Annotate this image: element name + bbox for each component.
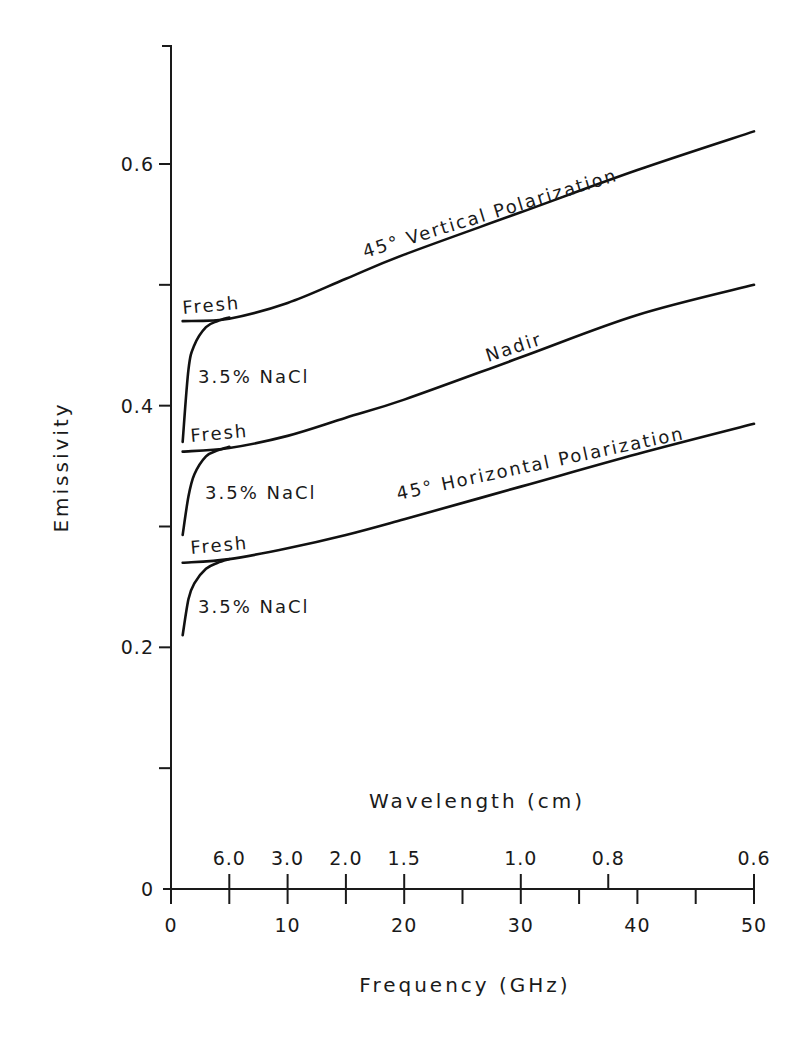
vertical-pol-label: 45° Vertical Polarization (360, 164, 620, 262)
x-tick-label: 0 (164, 914, 177, 936)
wavelength-tick-label: 1.0 (504, 847, 537, 869)
labels: Emissivity Frequency (GHz) Wavelength (c… (49, 164, 686, 997)
wavelength-tick-label: 0.6 (737, 847, 770, 869)
wavelength-tick-label: 0.8 (592, 847, 625, 869)
x-tick-label: 20 (391, 914, 417, 936)
nadir-nacl-label: 3.5% NaCl (205, 482, 317, 503)
horizontal-nacl-label: 3.5% NaCl (198, 596, 310, 617)
horizontal-pol-label: 45° Horizontal Polarization (394, 422, 686, 504)
y-axis-title: Emissivity (49, 401, 73, 532)
vertical-fresh-label: Fresh (182, 292, 242, 318)
y-tick-label: 0.4 (121, 395, 154, 417)
x-tick-label: 10 (275, 914, 301, 936)
y-axis-line (162, 46, 171, 901)
wavelength-tick-label: 6.0 (213, 847, 246, 869)
horizontal-fresh-label: Fresh (190, 532, 250, 558)
vertical-nacl-label: 3.5% NaCl (198, 366, 310, 387)
wavelength-tick-label: 1.5 (388, 847, 421, 869)
x-tick-label: 50 (741, 914, 767, 936)
emissivity-chart: 00.20.40.6010203040506.03.02.01.51.00.80… (0, 0, 812, 1045)
wavelength-axis-title: Wavelength (cm) (369, 789, 585, 813)
y-tick-label: 0.2 (121, 636, 154, 658)
x-tick-label: 40 (624, 914, 650, 936)
wavelength-tick-label: 3.0 (271, 847, 304, 869)
wavelength-tick-label: 2.0 (329, 847, 362, 869)
x-tick-label: 30 (508, 914, 534, 936)
nadir-fresh-label: Fresh (190, 420, 250, 446)
y-tick-label: 0.6 (121, 153, 154, 175)
x-axis-title: Frequency (GHz) (359, 973, 570, 997)
y-tick-label: 0 (141, 878, 154, 900)
